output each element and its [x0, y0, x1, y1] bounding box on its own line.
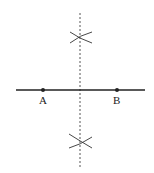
- point-b: [115, 88, 119, 92]
- point-a: [41, 88, 45, 92]
- diagram-canvas: A B: [0, 0, 154, 173]
- label-b: B: [113, 94, 120, 106]
- label-a: A: [39, 94, 47, 106]
- upper-arc-intersection: [70, 32, 92, 43]
